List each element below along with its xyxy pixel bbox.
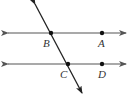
point-B xyxy=(49,31,53,35)
diagram-canvas: B A C D xyxy=(0,0,133,104)
label-A: A xyxy=(97,37,105,49)
label-B: B xyxy=(43,37,50,49)
point-D xyxy=(100,62,104,66)
label-D: D xyxy=(97,68,106,80)
label-C: C xyxy=(60,68,68,80)
point-A xyxy=(100,31,104,35)
point-C xyxy=(66,62,70,66)
